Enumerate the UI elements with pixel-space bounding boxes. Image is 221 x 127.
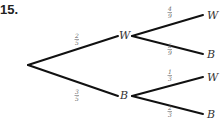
- branch-w-w-probability-denominator: 9: [168, 12, 172, 19]
- branch-b-edge: [28, 65, 118, 96]
- branch-b-probability-numerator: 3: [75, 88, 79, 95]
- branch-w-w-node-label: W: [207, 9, 220, 22]
- branch-b-b-node-label: B: [206, 108, 215, 121]
- branch-b-w-probability-numerator: 1: [168, 68, 172, 75]
- branch-b-node-label: B: [119, 89, 128, 102]
- branch-w-b-node-label: B: [206, 48, 215, 61]
- branch-b-w-probability-denominator: 3: [168, 75, 172, 82]
- branch-w-node-label: W: [119, 29, 132, 42]
- branch-b-w-node-label: W: [207, 71, 220, 84]
- branch-b-b-probability-denominator: 3: [168, 111, 172, 118]
- branch-b-b-probability-numerator: 2: [167, 104, 172, 111]
- branch-w-edge: [28, 36, 118, 65]
- branch-b-probability-denominator: 5: [75, 95, 79, 102]
- probability-tree-diagram: 25W49W59B35B13W23B: [0, 0, 221, 127]
- branch-w-probability-denominator: 5: [75, 39, 79, 46]
- branch-w-b-probability-denominator: 9: [168, 49, 172, 56]
- branch-w-probability-numerator: 2: [74, 32, 79, 39]
- branch-w-b-probability-numerator: 5: [168, 42, 172, 49]
- branch-w-w-probability-numerator: 4: [167, 5, 172, 12]
